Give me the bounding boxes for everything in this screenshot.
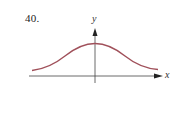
graph-canvas: [0, 0, 174, 139]
x-axis-arrow-icon: [154, 74, 163, 79]
y-axis-arrow-icon: [93, 28, 98, 36]
